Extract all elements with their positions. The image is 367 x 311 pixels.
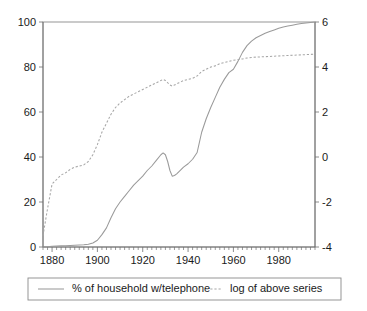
- x-ticklabel: 1980: [266, 254, 290, 266]
- y-ticklabel-right: -2: [322, 196, 332, 208]
- y-axis-left: 020406080100: [18, 16, 43, 253]
- y-ticklabel-right: 2: [322, 106, 328, 118]
- x-ticklabel: 1920: [130, 254, 154, 266]
- y-ticklabel-left: 40: [24, 151, 36, 163]
- figure-container: 020406080100 -4-20246 188019001920194019…: [0, 0, 367, 311]
- y-ticklabel-right: 4: [322, 61, 328, 73]
- legend-label-1: log of above series: [230, 282, 323, 294]
- y-ticklabel-left: 80: [24, 61, 36, 73]
- x-axis: 188019001920194019601980: [40, 247, 315, 266]
- x-ticklabel: 1940: [176, 254, 200, 266]
- y-ticklabel-right: 0: [322, 151, 328, 163]
- legend: % of household w/telephone log of above …: [28, 278, 341, 300]
- legend-label-0: % of household w/telephone: [72, 282, 210, 294]
- x-ticklabel: 1880: [40, 254, 64, 266]
- y-ticklabel-right: -4: [322, 241, 332, 253]
- y-ticklabel-left: 60: [24, 106, 36, 118]
- y-ticklabel-left: 20: [24, 196, 36, 208]
- y-ticklabel-left: 100: [18, 16, 36, 28]
- x-ticklabel: 1900: [85, 254, 109, 266]
- telephone-penetration-chart: 020406080100 -4-20246 188019001920194019…: [0, 0, 367, 311]
- series-log-of-above: [43, 54, 315, 236]
- y-ticklabel-right: 6: [322, 16, 328, 28]
- series-group: [43, 22, 315, 247]
- y-axis-right: -4-20246: [315, 16, 332, 253]
- y-ticklabel-left: 0: [30, 241, 36, 253]
- x-ticklabel: 1960: [221, 254, 245, 266]
